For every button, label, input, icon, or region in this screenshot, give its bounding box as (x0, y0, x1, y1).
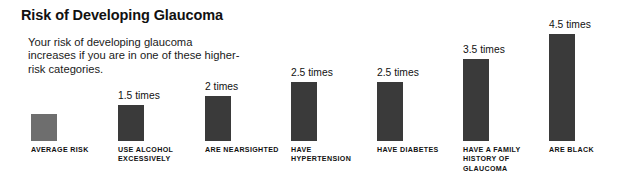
glaucoma-risk-chart: Risk of Developing Glaucoma Your risk of… (0, 0, 639, 187)
bar-value-label: 2.5 times (377, 67, 419, 78)
bar-value-label: 2.5 times (291, 67, 333, 78)
bar-rect (205, 96, 231, 141)
bar-group: 1.5 timesUSE ALCOHOL EXCESSIVELY (118, 105, 144, 141)
bar-category-label: ARE BLACK (549, 146, 631, 155)
bar-value-label: 2 times (205, 81, 238, 92)
bar-category-label: AVERAGE RISK (31, 146, 113, 155)
bar-value-label: 4.5 times (549, 19, 591, 30)
bar-value-label: 1.5 times (118, 90, 160, 101)
bar-group: 3.5 timesHAVE A FAMILY HISTORY OF GLAUCO… (463, 59, 489, 141)
bar-value-label: 3.5 times (463, 44, 505, 55)
bar-rect (463, 59, 489, 141)
bar-category-label: HAVE DIABETES (377, 146, 459, 155)
bar-rect (291, 82, 317, 141)
bar-rect (31, 114, 57, 141)
bar-group: 2.5 timesHAVE DIABETES (377, 82, 403, 141)
bar-group: 4.5 timesARE BLACK (549, 34, 575, 141)
bar-category-label: ARE NEARSIGHTED (205, 146, 287, 155)
bar-group: 2.5 timesHAVE HYPERTENSION (291, 82, 317, 141)
bar-group: 2 timesARE NEARSIGHTED (205, 96, 231, 141)
bar-rect (118, 105, 144, 141)
bar-group: AVERAGE RISK (31, 114, 57, 141)
bar-category-label: USE ALCOHOL EXCESSIVELY (118, 146, 200, 165)
bar-category-label: HAVE A FAMILY HISTORY OF GLAUCOMA (463, 146, 545, 174)
plot-area: AVERAGE RISK1.5 timesUSE ALCOHOL EXCESSI… (0, 0, 639, 187)
bar-rect (377, 82, 403, 141)
bar-rect (549, 34, 575, 141)
bar-category-label: HAVE HYPERTENSION (291, 146, 373, 165)
